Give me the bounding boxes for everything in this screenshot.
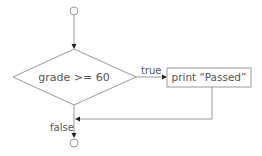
arrowhead-icon: [72, 44, 77, 49]
edge-label-false: false: [50, 122, 74, 133]
arrowhead-icon: [75, 117, 80, 122]
edge-label-true: true: [141, 65, 162, 76]
flowchart: grade >= 60 true print “Passed” false: [0, 0, 262, 156]
end-node: [70, 139, 78, 147]
action-label: print “Passed”: [172, 71, 247, 83]
arrowhead-icon: [72, 133, 77, 138]
decision-label: grade >= 60: [38, 71, 109, 84]
start-node: [70, 7, 78, 15]
arrowhead-icon: [162, 75, 167, 80]
